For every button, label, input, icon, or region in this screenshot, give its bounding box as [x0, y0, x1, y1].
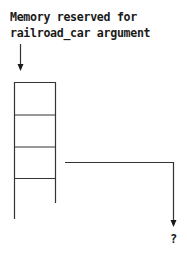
unknown-target-label: ? [170, 232, 177, 246]
arrow-down-icon [171, 220, 177, 227]
reference-pointer-line [65, 163, 174, 221]
arrow-down-icon [18, 64, 24, 71]
memory-diagram [0, 0, 187, 261]
